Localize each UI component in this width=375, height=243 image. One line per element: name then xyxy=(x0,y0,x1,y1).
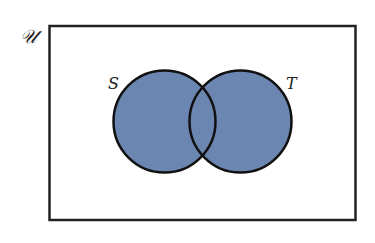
set-t-label: T xyxy=(286,74,298,93)
venn-diagram: 𝒰 S T xyxy=(0,0,375,243)
set-s-label: S xyxy=(108,74,119,93)
universe-label: 𝒰 xyxy=(20,25,42,47)
